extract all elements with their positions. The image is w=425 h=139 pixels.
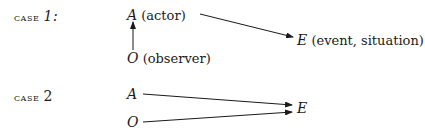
event-symbol: E — [297, 32, 307, 48]
arrow-actor-to-event — [200, 14, 293, 37]
observer-desc: (observer) — [143, 51, 211, 66]
arrow-observer-to-event-case2 — [143, 112, 292, 122]
event-symbol-case2: E — [297, 100, 307, 116]
actor-symbol-case2: A — [127, 86, 137, 102]
case2-number: 2 — [44, 88, 53, 104]
observer-symbol: O — [127, 50, 138, 66]
case1-word: case — [14, 10, 39, 24]
case2-observer: O — [127, 115, 138, 129]
arrow-actor-to-event-case2 — [143, 94, 292, 105]
case2-actor: A — [127, 87, 137, 101]
case2-word: case — [14, 90, 39, 104]
observer-symbol-case2: O — [127, 114, 138, 130]
case1-label: case 1: — [14, 9, 58, 23]
event-desc: (event, situation) — [311, 33, 424, 48]
arrows-layer — [0, 0, 425, 139]
actor-desc: (actor) — [141, 8, 185, 23]
actor-symbol: A — [127, 7, 137, 23]
case1-actor: A (actor) — [127, 8, 186, 22]
case1-observer: O (observer) — [127, 51, 211, 65]
case2-label: case 2 — [14, 89, 53, 103]
case2-event: E — [297, 101, 307, 115]
case1-number: 1: — [44, 8, 59, 24]
case1-event: E (event, situation) — [297, 33, 424, 47]
